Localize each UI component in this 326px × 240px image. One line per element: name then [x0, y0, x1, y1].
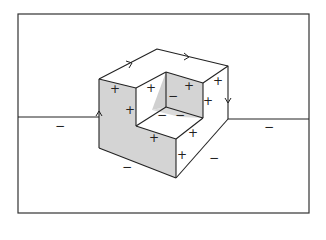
concave-label: −	[55, 120, 65, 132]
convex-label: +	[213, 75, 223, 87]
concave-label: −	[209, 152, 219, 164]
convex-label: +	[149, 132, 159, 144]
convex-label: +	[177, 149, 187, 161]
convex-label: +	[146, 82, 156, 94]
convex-label: +	[184, 80, 194, 92]
concave-label: −	[122, 161, 132, 173]
convex-label: +	[125, 104, 135, 116]
concave-label: −	[157, 109, 167, 121]
concave-label: −	[168, 90, 178, 102]
convex-label: +	[203, 95, 213, 107]
concave-label: −	[264, 121, 274, 133]
convex-label: +	[110, 83, 120, 95]
concave-label: −	[175, 109, 185, 121]
convex-label: +	[188, 127, 198, 139]
